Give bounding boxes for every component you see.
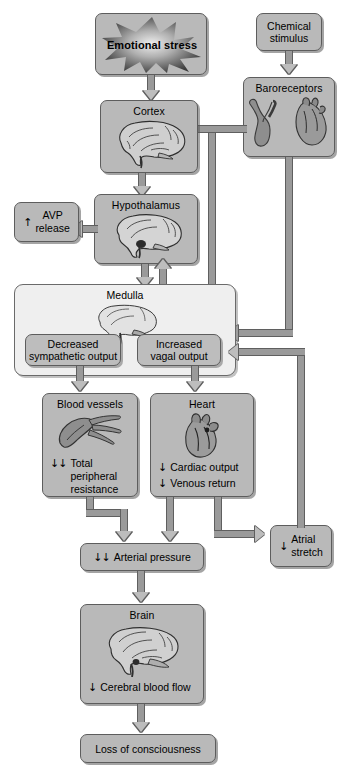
node-blood-vessels: Blood vessels ↓↓ Total peripheral bbox=[42, 393, 138, 497]
arrowhead-blood-vessels-to-arterial-pressure bbox=[116, 531, 132, 541]
node-loss-of-consciousness: Loss of consciousness bbox=[80, 734, 216, 763]
decreased-sympathetic-line2: sympathetic output bbox=[29, 350, 117, 362]
arrowhead-atrial-to-medulla bbox=[228, 344, 238, 360]
arrowhead-vagal-to-heart bbox=[187, 381, 203, 391]
avp-release-metric: ↑ AVP release bbox=[15, 209, 78, 235]
blood-vessels-title: Blood vessels bbox=[57, 398, 123, 410]
atrial-stretch-down-arrow-icon: ↓ bbox=[279, 540, 287, 553]
arterial-pressure-metric: ↓↓ Arterial pressure bbox=[81, 551, 203, 564]
cerebral-blood-flow-label: Cerebral blood flow bbox=[100, 681, 196, 694]
venous-return-down-arrow-icon: ↓ bbox=[158, 477, 166, 490]
arterial-pressure-label: Arterial pressure bbox=[114, 551, 191, 564]
baroreceptors-title: Baroreceptors bbox=[255, 82, 322, 94]
connector-arterial-pressure-to-brain bbox=[137, 571, 145, 594]
node-heart: Heart ↓ Cardiac output ↓ V bbox=[150, 393, 254, 497]
avp-release-line1: AVP bbox=[42, 209, 62, 221]
connector-ap-left-drop bbox=[120, 509, 128, 533]
heart-title: Heart bbox=[189, 398, 215, 410]
brain-cerebral-icon bbox=[81, 623, 203, 677]
brain-sagittal-icon bbox=[101, 117, 197, 169]
arrowhead-stress-to-cortex bbox=[143, 90, 159, 100]
arrowhead-brain-to-loss bbox=[133, 722, 149, 732]
chemical-stimulus-label-line2: stimulus bbox=[270, 32, 309, 44]
arrowhead-heart-to-arterial-pressure bbox=[162, 531, 178, 541]
node-increased-vagal-output: Increased vagal output bbox=[137, 334, 221, 366]
arrowhead-sympathetic-to-blood-vessels bbox=[72, 381, 88, 391]
cortex-title: Cortex bbox=[133, 105, 165, 117]
blood-vessels-metric: ↓↓ Total peripheral resistance bbox=[43, 457, 137, 496]
decreased-sympathetic-line1: Decreased bbox=[48, 338, 99, 350]
connector-atrial-to-medulla-horiz bbox=[238, 348, 305, 356]
increased-vagal-line1: Increased bbox=[156, 338, 202, 350]
starburst-icon: Emotional stress bbox=[96, 14, 208, 76]
connector-atrial-to-medulla-vert bbox=[297, 348, 305, 528]
node-decreased-sympathetic-output: Decreased sympathetic output bbox=[25, 334, 121, 366]
cardiac-output-label: Cardiac output bbox=[170, 461, 246, 474]
connector-baro-to-medulla-vert bbox=[285, 157, 293, 337]
avp-up-arrow-icon: ↑ bbox=[23, 216, 31, 229]
connector-brain-to-loss bbox=[137, 704, 145, 724]
heart-icon bbox=[151, 411, 253, 459]
carotid-sinus-and-heart-icon bbox=[244, 95, 334, 151]
medulla-title: Medulla bbox=[15, 289, 235, 301]
node-baroreceptors: Baroreceptors bbox=[243, 77, 335, 157]
arrowhead-heart-to-atrial-stretch bbox=[255, 526, 265, 542]
arrowhead-chemical-to-baroreceptors bbox=[281, 64, 297, 74]
atrial-stretch-line2: stretch bbox=[291, 546, 323, 558]
connector-heart-to-atrial-vert bbox=[214, 497, 222, 534]
heart-metric-cardiac-output: ↓ Cardiac output bbox=[151, 461, 253, 474]
node-avp-release: ↑ AVP release bbox=[14, 202, 79, 242]
loss-of-consciousness-label: Loss of consciousness bbox=[95, 743, 201, 755]
node-atrial-stretch: ↓ Atrial stretch bbox=[270, 525, 332, 567]
node-hypothalamus: Hypothalamus bbox=[94, 194, 198, 264]
cardiac-output-down-arrow-icon: ↓ bbox=[158, 461, 166, 474]
atrial-stretch-metric: ↓ Atrial stretch bbox=[271, 533, 331, 559]
connector-baro-to-cortex-horiz bbox=[195, 125, 247, 133]
flowchart-canvas: Emotional stress Chemical stimulus Baror… bbox=[0, 0, 342, 775]
node-chemical-stimulus: Chemical stimulus bbox=[256, 13, 322, 51]
arterial-pressure-down-arrows-icon: ↓↓ bbox=[93, 551, 109, 564]
connector-hypothalamus-to-avp bbox=[82, 225, 98, 233]
tpr-line1: Total peripheral bbox=[70, 457, 117, 482]
brain-title: Brain bbox=[129, 609, 154, 621]
arrowhead-arterial-pressure-to-brain bbox=[133, 592, 149, 602]
tpr-down-arrows-icon: ↓↓ bbox=[50, 457, 66, 470]
connector-heart-to-atrial-horiz bbox=[214, 530, 258, 538]
hypothalamus-title: Hypothalamus bbox=[112, 199, 180, 211]
blood-vessel-icon bbox=[43, 412, 137, 452]
node-arterial-pressure: ↓↓ Arterial pressure bbox=[80, 543, 204, 571]
node-brain: Brain ↓ Cerebral bl bbox=[80, 604, 204, 704]
emotional-stress-label: Emotional stress bbox=[107, 39, 197, 51]
brain-hypothalamus-icon bbox=[95, 211, 197, 259]
connector-baro-to-medulla-horiz bbox=[238, 329, 293, 337]
venous-return-label: Venous return bbox=[170, 477, 246, 490]
chemical-stimulus-label-line1: Chemical bbox=[267, 20, 311, 32]
connector-heart-to-ap-vert bbox=[166, 497, 174, 533]
avp-release-line2: release bbox=[35, 222, 69, 234]
brain-metric-cerebral-blood-flow: ↓ Cerebral blood flow bbox=[81, 681, 203, 694]
increased-vagal-line2: vagal output bbox=[150, 350, 207, 362]
cerebral-blood-flow-down-arrow-icon: ↓ bbox=[88, 681, 96, 694]
heart-metric-venous-return: ↓ Venous return bbox=[151, 477, 253, 490]
node-cortex: Cortex bbox=[100, 100, 198, 173]
atrial-stretch-line1: Atrial bbox=[291, 533, 315, 545]
tpr-line2: resistance bbox=[70, 483, 118, 495]
arrowhead-medulla-to-hypothalamus bbox=[155, 259, 171, 269]
node-emotional-stress: Emotional stress bbox=[95, 13, 207, 75]
